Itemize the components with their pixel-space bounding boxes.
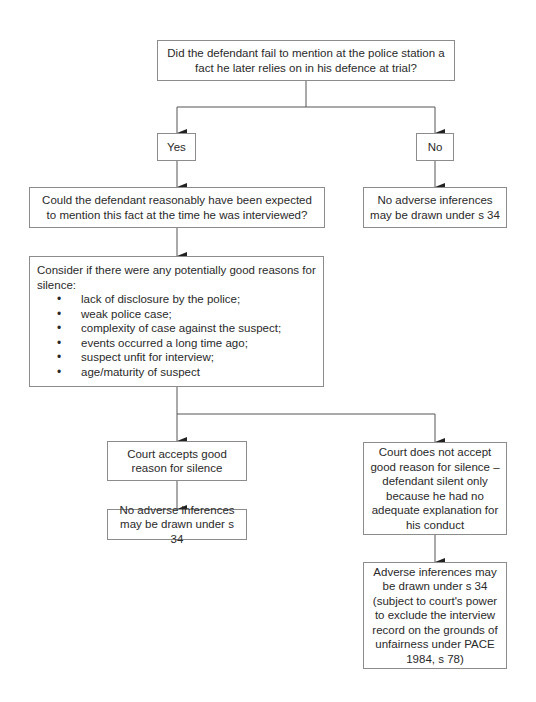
reason-item: lack of disclosure by the police; (57, 292, 316, 307)
court-accepts-box: Court accepts good reason for silence (107, 441, 247, 481)
question-reasonably-expected: Could the defendant reasonably have been… (29, 187, 325, 228)
no-adverse-inferences-text-1: No adverse inferences may be drawn under… (370, 193, 500, 222)
yes-box: Yes (157, 133, 196, 161)
adverse-inferences-text: Adverse inferences may be drawn under s … (370, 565, 500, 667)
reasons-list: lack of disclosure by the police; weak p… (37, 292, 316, 379)
no-label: No (428, 140, 443, 155)
court-accepts-text: Court accepts good reason for silence (114, 447, 240, 476)
reason-item: suspect unfit for interview; (57, 350, 316, 365)
consider-reasons-intro: Consider if there were any potentially g… (37, 263, 316, 292)
question-fail-to-mention: Did the defendant fail to mention at the… (157, 40, 455, 81)
no-adverse-inferences-box-1: No adverse inferences may be drawn under… (363, 187, 507, 228)
no-adverse-inferences-text-2: No adverse inferences may be drawn under… (114, 503, 240, 547)
reason-item: complexity of case against the suspect; (57, 321, 316, 336)
adverse-inferences-box: Adverse inferences may be drawn under s … (363, 562, 507, 669)
reason-item: age/maturity of suspect (57, 365, 316, 380)
no-adverse-inferences-box-2: No adverse inferences may be drawn under… (107, 509, 247, 540)
court-rejects-box: Court does not accept good reason for si… (363, 442, 507, 535)
reason-item: weak police case; (57, 307, 316, 322)
consider-reasons-box: Consider if there were any potentially g… (29, 256, 324, 387)
question-reasonably-expected-text: Could the defendant reasonably have been… (36, 193, 318, 222)
question-fail-to-mention-text: Did the defendant fail to mention at the… (164, 46, 448, 75)
court-rejects-text: Court does not accept good reason for si… (370, 445, 500, 532)
reason-item: events occurred a long time ago; (57, 336, 316, 351)
yes-label: Yes (167, 140, 186, 155)
no-box: No (416, 133, 454, 161)
